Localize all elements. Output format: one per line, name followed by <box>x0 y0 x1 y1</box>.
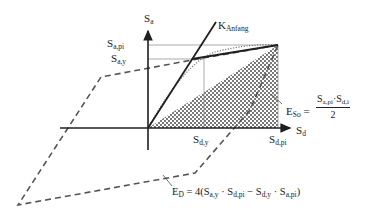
sd-sub: d <box>302 129 306 138</box>
eso-numerator: Sa,pi·Sd,i <box>316 93 350 108</box>
ed-close: ) <box>297 186 301 197</box>
equation-ed: ED = 4(Sa,y · Sd,pi − Sd,y · Sa,pi) <box>172 186 300 200</box>
eso-sub: So <box>293 110 301 119</box>
eso-denominator: 2 <box>330 108 335 120</box>
strain-energy-area <box>148 45 278 128</box>
axis-label-sa: Sa <box>144 13 153 27</box>
eso-symbol: E <box>286 105 293 117</box>
label-k-anfang: KAnfang <box>218 20 248 34</box>
ed-prefix: = 4( <box>186 186 203 197</box>
ed-sub: D <box>178 190 183 199</box>
sa-sub: a <box>150 17 153 26</box>
k-sub: Anfang <box>226 24 249 33</box>
equation-eso-lhs: ESo = <box>286 106 310 120</box>
ed-dot2: · <box>271 186 280 197</box>
sdpi-sub: d,pi <box>275 138 286 147</box>
tick-label-sd-y: Sd,y <box>193 134 209 148</box>
eso-equals: = <box>303 105 309 117</box>
tick-label-sa-pi: Sa,pi <box>107 38 124 52</box>
eso-num-a-sub: a,pi <box>323 98 333 106</box>
eso-num-b-sub: d,i <box>342 98 349 106</box>
ed-minus: − <box>245 186 256 197</box>
axis-label-sd: Sd <box>296 125 306 139</box>
tick-label-sa-y: Sa,y <box>111 53 126 67</box>
ed-t2-sub: d,pi <box>233 190 244 199</box>
ed-t3-sub: d,y <box>262 190 271 199</box>
ed-leader <box>163 175 172 186</box>
k-symbol: K <box>218 19 226 31</box>
tick-label-sd-pi: Sd,pi <box>269 134 287 148</box>
equation-eso-fraction: Sa,pi·Sd,i 2 <box>316 93 350 120</box>
sapi-sub: a,pi <box>113 42 124 51</box>
ed-t1-sub: a,y <box>210 190 219 199</box>
ed-t4-sub: a,pi <box>286 190 297 199</box>
say-sub: a,y <box>117 57 126 66</box>
sdy-sub: d,y <box>199 138 208 147</box>
